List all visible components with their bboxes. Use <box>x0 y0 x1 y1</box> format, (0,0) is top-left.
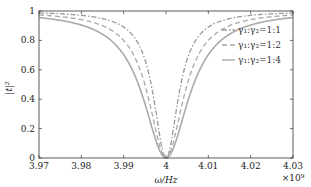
series-line-3 <box>39 18 293 158</box>
y-tick-labels: 00.20.40.60.81 <box>21 6 36 163</box>
y-tick-label: 0.6 <box>21 65 36 75</box>
y-tick-label: 0.4 <box>21 94 36 104</box>
legend-label: γ₁:γ₂=1:1 <box>238 25 281 35</box>
x-tick-label: 4.03 <box>283 161 303 171</box>
legend-label: γ₁:γ₂=1:4 <box>238 55 281 65</box>
series-line-2 <box>39 15 293 158</box>
x-axis-label: ω/Hz <box>155 175 178 185</box>
x-tick-label: 4.01 <box>198 161 218 171</box>
y-tick-label: 0.8 <box>21 35 36 45</box>
y-tick-label: 1 <box>29 6 35 16</box>
y-axis-label: |t|² <box>4 81 15 95</box>
transmission-chart: 3.973.983.9944.014.024.03 00.20.40.60.81… <box>0 0 311 187</box>
x-tick-label: 4 <box>163 161 169 171</box>
x-tick-label: 4.02 <box>241 161 261 171</box>
y-tick-label: 0 <box>29 153 35 163</box>
x-tick-labels: 3.973.983.9944.014.024.03 <box>29 161 303 171</box>
legend-label: γ₁:γ₂=1:2 <box>238 40 281 50</box>
x-tick-label: 3.98 <box>71 161 91 171</box>
x-multiplier: ×10⁹ <box>282 173 305 183</box>
x-tick-label: 3.99 <box>114 161 134 171</box>
y-tick-label: 0.2 <box>21 124 35 134</box>
legend: γ₁:γ₂=1:1γ₁:γ₂=1:2γ₁:γ₂=1:4 <box>222 25 281 65</box>
